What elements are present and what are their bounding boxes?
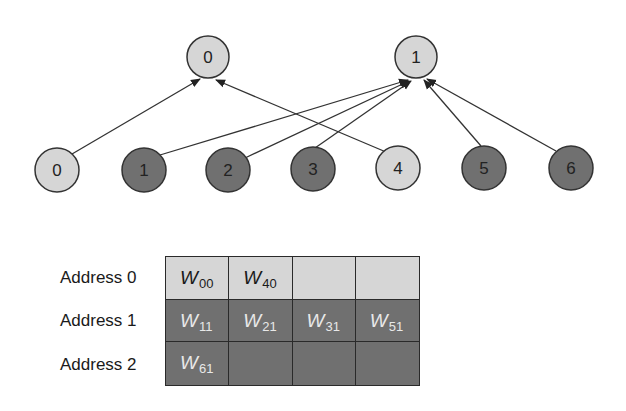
cell-a2-c0: W61 [166,342,229,385]
svg-text:5: 5 [479,159,488,178]
cell-a0-c3 [356,257,419,300]
input-node-6: 6 [549,146,593,190]
svg-text:0: 0 [52,161,61,180]
cell-a1-c1: W21 [229,300,292,343]
svg-text:6: 6 [566,159,575,178]
cell-a1-c3: W51 [356,300,419,343]
input-node-1: 1 [122,148,166,192]
cell-a0-c0: W00 [166,257,229,300]
cell-a1-c0: W11 [166,300,229,343]
edge-in3-out1 [315,81,411,148]
neural-graph: 0 1 0 1 2 3 4 5 [0,0,626,240]
address-0-label: Address 0 [60,268,137,288]
cell-a0-c2 [293,257,356,300]
input-node-2: 2 [206,148,250,192]
cell-a2-c2 [293,342,356,385]
output-node-0: 0 [187,36,229,78]
svg-text:1: 1 [139,161,148,180]
svg-text:3: 3 [308,160,317,179]
input-node-4: 4 [376,146,420,190]
address-2-label: Address 2 [60,355,137,375]
edge-in6-out1 [427,79,556,151]
input-node-5: 5 [462,146,506,190]
input-node-0: 0 [35,148,79,192]
cell-a2-c1 [229,342,292,385]
address-1-label: Address 1 [60,311,137,331]
edge-in2-out1 [245,81,409,158]
edge-in1-out1 [160,80,408,155]
edge-in0-out0 [72,79,200,154]
cell-a0-c1: W40 [229,257,292,300]
edge-in5-out1 [424,80,481,146]
svg-text:2: 2 [223,161,232,180]
input-node-3: 3 [291,147,335,191]
weight-memory-table: W00 W40 W11 W21 W31 W51 W61 [165,256,420,386]
output-node-1: 1 [395,36,437,78]
cell-a2-c3 [356,342,419,385]
svg-text:0: 0 [203,48,212,67]
svg-text:1: 1 [411,48,420,67]
output-nodes: 0 1 [187,36,437,78]
svg-text:4: 4 [393,159,402,178]
input-nodes: 0 1 2 3 4 5 6 [35,146,593,192]
cell-a1-c2: W31 [293,300,356,343]
